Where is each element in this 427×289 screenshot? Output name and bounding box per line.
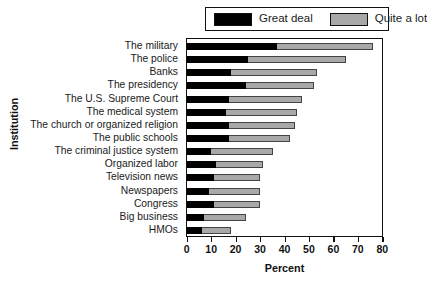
bar-row (187, 43, 373, 50)
y-axis-tick-label: The medical system (86, 107, 178, 117)
y-axis-tick-label: Banks (149, 67, 178, 77)
bar-segment-quite-a-lot (248, 56, 346, 63)
bar-row (187, 227, 231, 234)
bar-segment-quite-a-lot (204, 214, 246, 221)
bar-segment-great-deal (187, 69, 231, 76)
x-axis-tick (260, 237, 261, 242)
y-axis-tick-label: Organized labor (105, 159, 178, 169)
x-axis-tick (236, 237, 237, 242)
y-axis-title: Institution (8, 74, 20, 174)
legend-swatch-gray (330, 13, 368, 26)
x-axis-tick-labels: 01020304050607080 (186, 243, 383, 257)
bar-segment-great-deal (187, 148, 211, 155)
x-axis-tick (285, 237, 286, 242)
y-axis-tick-labels: The militaryThe policeBanksThe presidenc… (0, 38, 182, 237)
y-axis-tick-label: HMOs (149, 225, 178, 235)
y-axis-tick-label: The public schools (93, 133, 178, 143)
bar-segment-quite-a-lot (246, 82, 314, 89)
bar-row (187, 174, 260, 181)
bar-segment-great-deal (187, 43, 277, 50)
y-axis-tick-label: The presidency (108, 80, 178, 90)
bar-segment-great-deal (187, 227, 202, 234)
bar-segment-great-deal (187, 174, 214, 181)
y-axis-tick-label: The police (130, 54, 178, 64)
bar-segment-quite-a-lot (229, 96, 302, 103)
bar-row (187, 148, 273, 155)
y-axis-tick-label: Congress (134, 199, 178, 209)
bar-row (187, 109, 297, 116)
bar-segment-quite-a-lot (211, 148, 272, 155)
bar-segment-quite-a-lot (226, 109, 297, 116)
plot-area (186, 38, 383, 237)
legend-item-great-deal: Great deal (214, 8, 313, 30)
bar-row (187, 82, 314, 89)
bar-row (187, 96, 302, 103)
bar-row (187, 135, 290, 142)
bar-row (187, 122, 295, 129)
legend-item-quite-a-lot: Quite a lot (330, 8, 427, 30)
x-axis-tick-label: 40 (279, 243, 291, 255)
bar-segment-quite-a-lot (214, 174, 260, 181)
bar-segment-great-deal (187, 109, 226, 116)
bar-segment-quite-a-lot (229, 122, 295, 129)
x-axis-tick (309, 237, 310, 242)
bar-segment-quite-a-lot (231, 69, 317, 76)
x-axis-tick-label: 50 (303, 243, 315, 255)
x-axis-tick (187, 237, 188, 242)
bar-row (187, 69, 317, 76)
bar-segment-great-deal (187, 122, 229, 129)
bar-segment-quite-a-lot (229, 135, 290, 142)
bar-segment-great-deal (187, 188, 209, 195)
x-axis-tick-label: 70 (352, 243, 364, 255)
bar-segment-great-deal (187, 96, 229, 103)
x-axis-tick-label: 20 (230, 243, 242, 255)
bar-segment-great-deal (187, 161, 216, 168)
y-axis-tick-label: Newspapers (121, 186, 178, 196)
x-axis-tick-label: 60 (328, 243, 340, 255)
y-axis-tick-label: The military (125, 41, 178, 51)
bar-segment-great-deal (187, 82, 246, 89)
y-axis-tick-label: Television news (106, 172, 178, 182)
bar-row (187, 56, 346, 63)
bar-row (187, 201, 260, 208)
bar-row (187, 161, 263, 168)
x-axis-tick-label: 0 (184, 243, 190, 255)
bar-segment-quite-a-lot (216, 161, 262, 168)
x-axis-tick (382, 237, 383, 242)
bar-segment-great-deal (187, 214, 204, 221)
x-axis-tick (211, 237, 212, 242)
x-axis-title: Percent (186, 262, 383, 274)
y-axis-tick-label: The criminal justice system (54, 146, 178, 156)
x-axis-tick-label: 10 (205, 243, 217, 255)
bar-segment-great-deal (187, 135, 229, 142)
bar-segment-great-deal (187, 56, 248, 63)
bar-segment-quite-a-lot (202, 227, 231, 234)
bar-segment-quite-a-lot (214, 201, 260, 208)
legend-label-quite-a-lot: Quite a lot (375, 13, 427, 25)
bar-segment-quite-a-lot (277, 43, 372, 50)
legend-swatch-black (214, 13, 252, 26)
y-axis-tick-label: Big business (120, 212, 178, 222)
x-axis-tick (333, 237, 334, 242)
x-axis-tick-label: 30 (254, 243, 266, 255)
bar-row (187, 214, 246, 221)
bar-row (187, 188, 260, 195)
y-axis-tick-label: The church or organized religion (30, 120, 178, 130)
bar-segment-quite-a-lot (209, 188, 260, 195)
chart-legend: Great deal Quite a lot (205, 7, 389, 31)
legend-label-great-deal: Great deal (259, 13, 313, 25)
bar-segment-great-deal (187, 201, 214, 208)
y-axis-tick-label: The U.S. Supreme Court (65, 94, 178, 104)
x-axis-tick (358, 237, 359, 242)
x-axis-tick-label: 80 (376, 243, 388, 255)
